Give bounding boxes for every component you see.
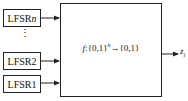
lfsr-n-prefix: LFSR xyxy=(8,13,32,24)
lfsr-2-box: LFSR2 xyxy=(3,52,41,70)
lfsr-2-label: LFSR2 xyxy=(8,56,37,67)
output-label: zi xyxy=(180,46,185,58)
function-label: f:{0,1}n→{0,1} xyxy=(61,42,161,53)
lfsr-n-suffix: n xyxy=(31,13,36,24)
function-arrow: → xyxy=(111,43,120,53)
lfsr-1-label: LFSR1 xyxy=(8,79,37,90)
lfsr-1-box: LFSR1 xyxy=(3,75,41,93)
ellipsis: ⋮ xyxy=(20,31,24,35)
combining-function-box: f:{0,1}n→{0,1} xyxy=(60,3,162,97)
output-subscript: i xyxy=(184,52,186,58)
function-domain: {0,1} xyxy=(88,43,108,53)
lfsr-n-box: LFSRn xyxy=(3,9,41,27)
function-codomain: {0,1} xyxy=(120,43,140,53)
